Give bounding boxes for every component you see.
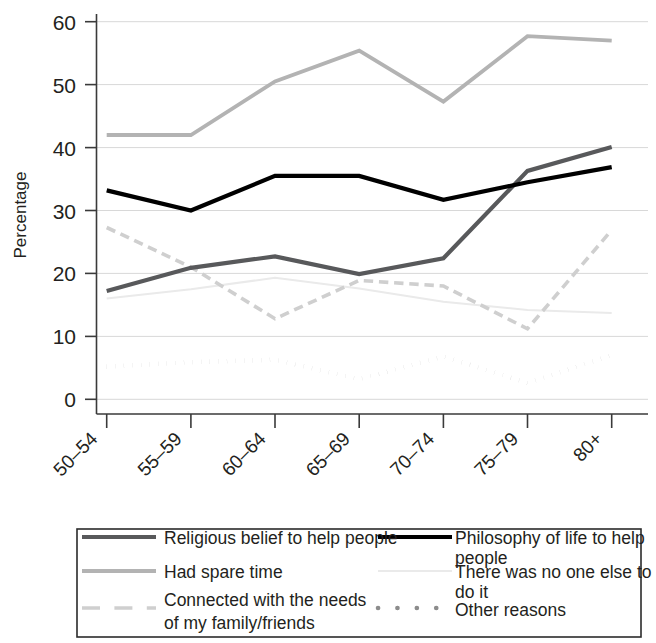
series-line-3 (107, 278, 612, 313)
series-line-1 (107, 167, 612, 210)
x-tick-label-2: 60–64 (218, 428, 271, 481)
x-tick-label-3: 65–69 (302, 428, 354, 480)
series-line-0 (107, 147, 612, 291)
y-tick-label-60: 60 (53, 11, 76, 34)
y-tick-label-50: 50 (53, 74, 76, 97)
y-axis-ticks: 0102030405060 (53, 11, 97, 412)
x-tick-label-1: 55–59 (134, 428, 186, 480)
y-tick-label-0: 0 (64, 388, 76, 411)
x-tick-label-6: 80+ (569, 428, 607, 466)
x-axis-labels: 50–5455–5960–6465–6970–7475–7980+ (49, 428, 606, 481)
x-axis-ticks (107, 414, 612, 428)
data-series-layer (107, 36, 612, 383)
x-tick-label-0: 50–54 (49, 428, 102, 481)
y-axis-title-group: Percentage (11, 172, 30, 259)
series-line-2 (107, 36, 612, 135)
x-tick-label-5: 75–79 (470, 428, 522, 480)
y-axis-title: Percentage (11, 172, 30, 259)
y-tick-label-30: 30 (53, 200, 76, 223)
legend-swatches (82, 537, 452, 608)
gridlines (97, 22, 648, 400)
legend-border (77, 529, 641, 637)
y-tick-label-20: 20 (53, 262, 76, 285)
y-tick-label-10: 10 (53, 325, 76, 348)
y-tick-label-40: 40 (53, 137, 76, 160)
x-tick-label-4: 70–74 (386, 428, 439, 481)
series-line-5 (107, 355, 612, 383)
series-line-4 (107, 228, 612, 329)
